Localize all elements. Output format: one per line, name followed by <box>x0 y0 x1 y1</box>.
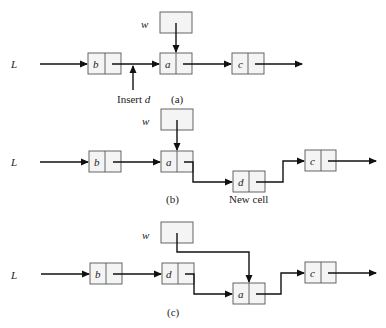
svg-text:b: b <box>94 156 100 168</box>
list-label-L: L <box>10 269 17 281</box>
caption-a: (a) <box>171 93 184 106</box>
svg-text:a: a <box>165 58 171 70</box>
pointer-label-w: w <box>141 18 149 30</box>
linked-list-diagram: L b a c w Insert d (a) L <box>0 0 386 328</box>
pointer-label-w: w <box>142 229 150 241</box>
svg-text:b: b <box>95 268 101 280</box>
panel-c: L b d a c w (c) <box>10 222 376 319</box>
caption-c: (c) <box>167 306 180 319</box>
list-label-L: L <box>10 156 17 168</box>
panel-b: L b a d c w (b) New cell <box>10 109 376 206</box>
svg-text:c: c <box>310 267 315 279</box>
list-label-L: L <box>10 58 17 70</box>
svg-text:c: c <box>310 155 315 167</box>
svg-text:d: d <box>166 268 172 280</box>
pointer-label-w: w <box>142 115 150 127</box>
caption-b: (b) <box>166 193 179 206</box>
svg-text:b: b <box>93 58 99 70</box>
panel-a: L b a c w Insert d (a) <box>10 12 302 106</box>
insert-annotation: Insert d <box>117 93 151 105</box>
svg-text:a: a <box>166 156 172 168</box>
new-cell-annotation: New cell <box>229 193 268 205</box>
svg-text:d: d <box>238 176 244 188</box>
svg-text:c: c <box>238 58 243 70</box>
svg-text:a: a <box>238 288 244 300</box>
